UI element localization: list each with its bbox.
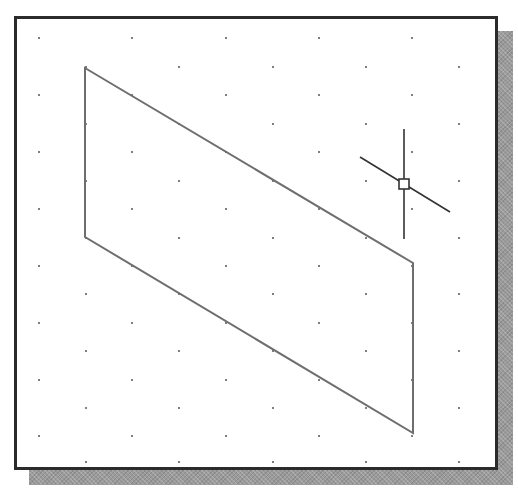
grid-dot [318,322,320,324]
grid-dot [365,461,367,463]
grid-dot [131,151,133,153]
grid-dot [225,94,227,96]
grid-dot [131,435,133,437]
grid-dot [38,322,40,324]
grid-dot [365,237,367,239]
grid-dot [365,293,367,295]
grid-dot [411,435,413,437]
grid-dot [272,237,274,239]
grid-dot [272,461,274,463]
grid-dot [178,461,180,463]
grid-dot [365,180,367,182]
grid-dot [38,435,40,437]
grid-dot [178,180,180,182]
grid-dot [131,322,133,324]
grid-dot [225,379,227,381]
grid-dot [85,293,87,295]
grid-dot [131,37,133,39]
grid-dot [318,265,320,267]
crosshair-cursor-icon [360,129,450,239]
grid-dot [38,265,40,267]
grid-dot [365,350,367,352]
grid-dot [272,66,274,68]
grid-dot [178,350,180,352]
grid-dot [411,94,413,96]
grid-dot [225,208,227,210]
grid-dot [411,151,413,153]
grid-dot [318,379,320,381]
isometric-grid [38,37,460,463]
grid-dot [38,151,40,153]
grid-dot [38,379,40,381]
grid-dot [458,66,460,68]
grid-dot [225,37,227,39]
grid-dot [178,237,180,239]
grid-dot [85,350,87,352]
grid-dot [365,123,367,125]
grid-dot [318,94,320,96]
grid-dot [458,407,460,409]
grid-dot [38,208,40,210]
grid-dot [318,435,320,437]
grid-dot [411,208,413,210]
grid-dot [85,407,87,409]
grid-dot [458,237,460,239]
grid-dot [225,265,227,267]
parallelogram-shape[interactable] [85,68,413,433]
grid-dot [318,151,320,153]
grid-dot [458,123,460,125]
grid-dot [38,94,40,96]
grid-dot [318,37,320,39]
grid-dot [365,66,367,68]
grid-dot [225,435,227,437]
grid-dot [178,66,180,68]
grid-dot [178,407,180,409]
grid-dot [272,123,274,125]
drawing-canvas[interactable] [0,0,518,499]
grid-dot [38,37,40,39]
grid-dot [131,208,133,210]
grid-dot [272,293,274,295]
grid-dot [131,379,133,381]
grid-dot [458,293,460,295]
grid-dot [272,407,274,409]
grid-dot [458,180,460,182]
grid-dot [365,407,367,409]
grid-dot [458,350,460,352]
grid-dot [85,461,87,463]
grid-dot [411,37,413,39]
grid-dot [458,461,460,463]
cursor-pickbox [399,179,409,189]
